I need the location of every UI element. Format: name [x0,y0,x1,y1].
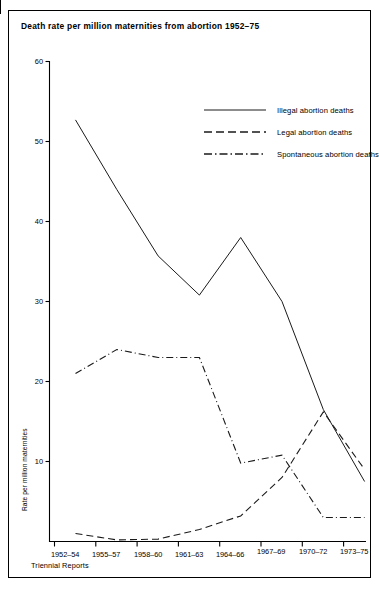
legend-label-illegal: Illegal abortion deaths [277,106,354,115]
y-tick-label-50: 50 [21,137,43,146]
chart-plot-area [9,11,372,579]
x-axis-ticks [55,542,373,547]
y-tick-label-20: 20 [21,377,43,386]
series-illegal-abortion-deaths [76,120,365,482]
chart-figure: Death rate per million maternities from … [8,10,371,578]
series-legal-abortion-deaths [76,412,365,540]
series-spontaneous-abortion-deaths [76,350,365,518]
x-axis-title: Triennial Reports [31,561,89,570]
x-tick-label-1973-75: 1973–75 [340,547,368,556]
series-group [76,120,365,540]
x-tick-label-1964-66: 1964–66 [216,550,244,559]
page-corner-mark [0,0,4,14]
x-tick-label-1970-72: 1970–72 [299,547,327,556]
x-tick-label-1958-60: 1958–60 [134,550,162,559]
legend-swatches [204,110,266,154]
y-tick-label-60: 60 [21,57,43,66]
x-tick-label-1961-63: 1961–63 [175,550,203,559]
x-tick-label-1955-57: 1955–57 [92,550,120,559]
x-tick-label-1967-69: 1967–69 [257,547,285,556]
y-tick-label-40: 40 [21,217,43,226]
y-axis-ticks [46,62,50,462]
y-axis-title: Rate per million maternities [21,428,28,511]
legend-label-spontaneous: Spontaneous abortion deaths [277,150,379,159]
legend-label-legal: Legal abortion deaths [277,128,352,137]
x-tick-label-1952-54: 1952–54 [51,550,79,559]
y-tick-label-30: 30 [21,297,43,306]
